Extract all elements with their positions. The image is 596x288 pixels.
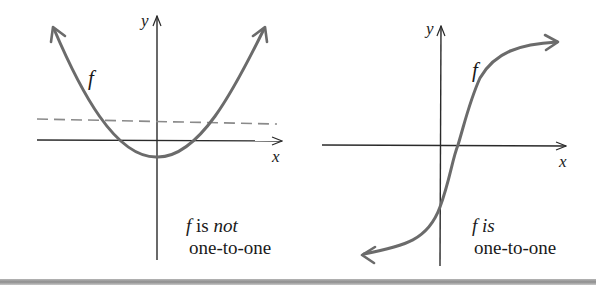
right-curve-label: f [472,60,478,81]
s-curve [364,42,557,254]
left-curve-label: f [88,68,94,89]
left-x-axis [37,140,282,141]
one-to-one-figure: y x f f is not one-to-one y x f f is one… [0,0,596,288]
bottom-divider-bar [0,279,596,285]
right-y-axis-label: y [426,20,434,37]
left-caption-line2: one-to-one [189,238,271,257]
left-x-axis-label: x [272,148,280,165]
left-caption-line1: f is not [186,216,238,235]
parabola-curve [54,29,264,157]
right-graph [322,26,566,266]
left-y-axis-label: y [141,12,149,29]
right-caption-line2: one-to-one [474,238,556,257]
left-caption-is: is [191,215,213,236]
right-x-axis-label: x [559,153,567,170]
right-caption-line1: f is [472,216,495,235]
s-curve-bottom-arrowhead [362,247,375,263]
right-x-axis [322,145,566,146]
left-caption-not: not [213,215,237,236]
left-graph [37,16,282,260]
right-caption-is: is [477,215,494,236]
right-y-axis [440,26,441,266]
